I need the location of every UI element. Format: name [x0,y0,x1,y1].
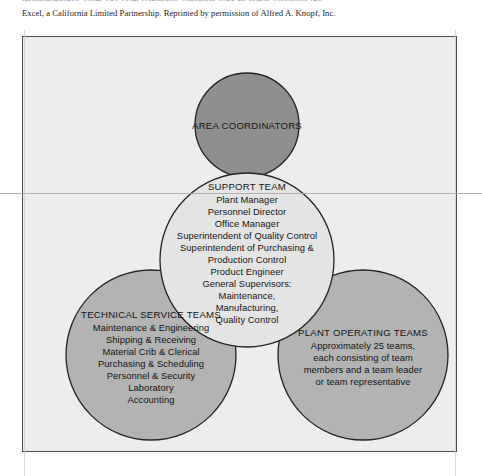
technical-service-teams-item: Purchasing & Scheduling [98,358,204,369]
support-team-item: Personnel Director [208,206,287,217]
support-team-item: Product Engineer [210,266,283,277]
technical-service-teams-item: Maintenance & Engineering [93,322,209,333]
venn-diagram: AREA COORDINATORS SUPPORT TEAM Plant Man… [23,37,458,453]
caption-clipped-line: interdependence. From The Team Handbook,… [22,0,462,1]
support-team-item: Quality Control [216,314,279,325]
technical-service-teams-item: Laboratory [128,382,174,393]
technical-service-teams-item: Accounting [128,394,175,405]
support-team-item: Superintendent of Quality Control [177,230,317,241]
technical-service-teams-title: TECHNICAL SERVICE TEAMS [81,309,221,320]
technical-service-teams-item: Personnel & Security [107,370,196,381]
plant-operating-teams-item: members and a team leader [304,364,423,375]
figure-caption: interdependence. From The Team Handbook,… [0,0,482,30]
support-team-item: Plant Manager [216,194,278,205]
caption-line: Excel, a California Limited Partnership.… [22,8,462,19]
figure-frame: AREA COORDINATORS SUPPORT TEAM Plant Man… [22,36,457,452]
area-coordinators-title: AREA COORDINATORS [192,120,302,131]
technical-service-teams-item: Material Crib & Clerical [102,346,199,357]
support-team-title: SUPPORT TEAM [208,181,286,192]
support-team-item: General Supervisors: [202,278,291,289]
technical-service-teams-item: Shipping & Receiving [106,334,196,345]
plant-operating-teams-item: or team representative [316,376,411,387]
support-team-item: Maintenance, [219,290,276,301]
plant-operating-teams-item: Approximately 25 teams, [311,340,415,351]
support-team-item: Superintendent of Purchasing & [180,242,315,253]
support-team-item: Manufacturing, [216,302,279,313]
support-team-item: Office Manager [215,218,280,229]
plant-operating-teams-title: PLANT OPERATING TEAMS [298,327,428,338]
plant-operating-teams-item: each consisting of team [313,352,413,363]
support-team-item: Production Control [208,254,287,265]
